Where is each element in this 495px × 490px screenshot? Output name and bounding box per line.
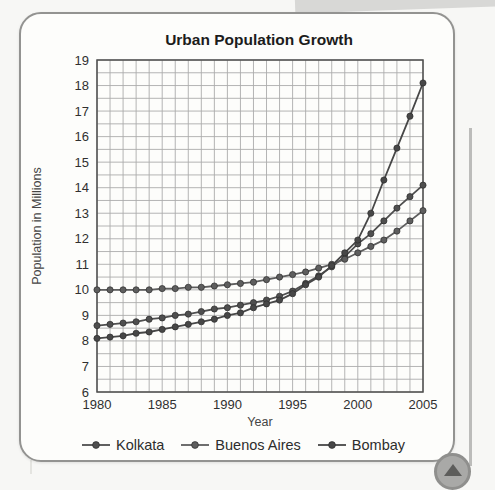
data-point-marker [198, 319, 204, 325]
data-point-marker [316, 265, 322, 271]
data-point-marker [107, 287, 113, 293]
data-point-marker [237, 280, 243, 286]
data-point-marker [420, 80, 426, 86]
data-point-marker [107, 334, 113, 340]
y-axis-label: Population in Millions [30, 167, 44, 284]
data-point-marker [250, 305, 256, 311]
data-point-marker [146, 316, 152, 322]
data-point-marker [185, 311, 191, 317]
data-point-marker [368, 231, 374, 237]
data-point-marker [368, 210, 374, 216]
legend-item-buenos-aires: Buenos Aires [180, 437, 300, 453]
data-point-marker [94, 335, 100, 341]
data-point-marker [394, 145, 400, 151]
legend-item-bombay: Bombay [317, 437, 405, 453]
y-tick-label: 16 [75, 129, 89, 144]
y-tick-label: 15 [75, 155, 89, 170]
data-point-marker [342, 250, 348, 256]
up-arrow-icon [444, 464, 462, 476]
data-point-marker [355, 250, 361, 256]
data-point-marker [303, 269, 309, 275]
y-tick-label: 18 [75, 78, 89, 93]
data-point-marker [276, 274, 282, 280]
data-point-marker [211, 306, 217, 312]
y-tick-label: 14 [75, 180, 89, 195]
legend-item-kolkata: Kolkata [81, 437, 164, 453]
data-point-marker [237, 310, 243, 316]
data-point-marker [263, 277, 269, 283]
data-point-marker [250, 279, 256, 285]
data-point-marker [394, 205, 400, 211]
bombay-line-marker-icon [317, 439, 347, 451]
scan-artifact-fold-line [30, 460, 32, 474]
data-point-marker [290, 291, 296, 297]
data-point-marker [381, 218, 387, 224]
data-point-marker [420, 208, 426, 214]
y-tick-label: 7 [82, 359, 89, 374]
data-point-marker [185, 284, 191, 290]
y-tick-label: 13 [75, 206, 89, 221]
x-tick-label: 2005 [409, 397, 438, 412]
data-point-marker [185, 321, 191, 327]
data-point-marker [133, 330, 139, 336]
y-tick-label: 9 [82, 308, 89, 323]
gridlines [97, 60, 423, 392]
data-point-marker [407, 194, 413, 200]
series-line-bombay [97, 83, 423, 338]
data-point-marker [198, 308, 204, 314]
data-point-marker [107, 321, 113, 327]
data-point-marker [303, 282, 309, 288]
data-point-marker [276, 297, 282, 303]
data-point-marker [159, 285, 165, 291]
data-point-marker [159, 315, 165, 321]
data-point-marker [172, 312, 178, 318]
x-tick-label: 1980 [83, 397, 112, 412]
data-point-marker [198, 284, 204, 290]
kolkata-line-marker-icon [81, 439, 111, 451]
data-point-marker [329, 262, 335, 268]
y-tick-label: 19 [75, 53, 89, 68]
data-point-marker [263, 301, 269, 307]
x-tick-label: 1995 [278, 397, 307, 412]
data-point-marker [394, 228, 400, 234]
data-point-marker [355, 237, 361, 243]
chart-svg: Urban Population Growth 6789101112131415… [21, 14, 453, 460]
series-line-buenos-aires [97, 211, 423, 290]
data-point-marker [420, 182, 426, 188]
data-point-marker [172, 324, 178, 330]
x-tick-label: 2000 [343, 397, 372, 412]
page-nav-badge [434, 453, 471, 490]
data-point-marker [146, 329, 152, 335]
data-point-marker [94, 287, 100, 293]
data-point-marker [211, 316, 217, 322]
legend-label-kolkata: Kolkata [116, 437, 164, 453]
x-tick-labels: 198019851990199520002005 [83, 397, 438, 412]
data-point-marker [381, 177, 387, 183]
y-tick-labels: 678910111213141516171819 [75, 53, 89, 400]
data-point-marker [120, 333, 126, 339]
data-point-marker [120, 287, 126, 293]
data-point-marker [342, 256, 348, 262]
data-point-marker [120, 320, 126, 326]
data-point-marker [224, 312, 230, 318]
chart-title: Urban Population Growth [165, 31, 353, 48]
data-point-marker [211, 283, 217, 289]
chart-legend: Kolkata Buenos Aires Bombay [21, 432, 453, 458]
y-tick-label: 12 [75, 231, 89, 246]
chart-card: Urban Population Growth 6789101112131415… [19, 12, 455, 462]
data-point-marker [316, 274, 322, 280]
data-point-marker [172, 285, 178, 291]
y-tick-label: 10 [75, 282, 89, 297]
data-point-marker [224, 305, 230, 311]
buenos-aires-line-marker-icon [180, 439, 210, 451]
x-axis-label: Year [247, 415, 272, 429]
legend-label-bombay: Bombay [352, 437, 405, 453]
legend-label-buenos-aires: Buenos Aires [215, 437, 300, 453]
y-tick-label: 8 [82, 333, 89, 348]
data-point-marker [237, 302, 243, 308]
data-point-marker [133, 287, 139, 293]
data-point-marker [407, 218, 413, 224]
data-point-marker [407, 113, 413, 119]
data-point-marker [94, 323, 100, 329]
y-tick-label: 17 [75, 104, 89, 119]
